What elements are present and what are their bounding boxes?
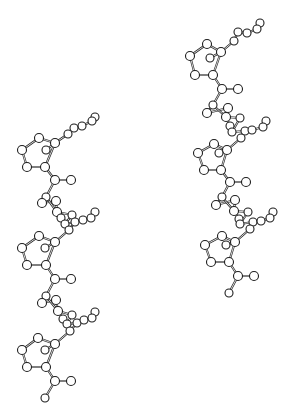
atom <box>78 122 86 130</box>
atom <box>236 114 244 122</box>
atom <box>64 130 72 138</box>
right-helix-molecule <box>186 19 278 297</box>
atom <box>237 134 245 142</box>
atom <box>222 241 230 249</box>
atom <box>65 226 73 234</box>
atom <box>52 197 61 206</box>
atom <box>23 261 32 270</box>
atom <box>209 101 217 109</box>
atom <box>201 241 210 250</box>
atom <box>209 71 218 80</box>
atom <box>34 334 43 343</box>
atom <box>242 178 251 187</box>
atom <box>38 299 47 308</box>
atom <box>217 48 226 57</box>
atom <box>218 85 227 94</box>
atom <box>226 178 235 187</box>
atom <box>259 123 267 131</box>
atom <box>51 238 60 247</box>
atom <box>80 316 88 324</box>
atom <box>186 52 195 61</box>
atom <box>67 377 76 386</box>
atom <box>234 85 243 94</box>
atom <box>243 29 251 37</box>
atom <box>234 28 242 36</box>
atom <box>266 214 274 222</box>
atom <box>54 307 63 316</box>
atom <box>200 166 209 175</box>
atom <box>231 238 240 247</box>
bond-layer <box>22 117 95 398</box>
atom <box>246 225 254 233</box>
atom <box>35 134 44 143</box>
atom <box>18 346 27 355</box>
atom <box>244 208 252 216</box>
atom <box>41 244 49 252</box>
atom <box>35 232 44 241</box>
atom <box>253 25 261 33</box>
left-helix-molecule <box>18 113 100 402</box>
atom <box>41 163 50 172</box>
atom <box>225 289 233 297</box>
atom <box>51 340 60 349</box>
atom <box>222 113 231 122</box>
atom-layer <box>18 113 100 402</box>
atom <box>23 163 32 172</box>
atom <box>42 261 51 270</box>
atom <box>18 244 27 253</box>
atom <box>231 196 240 205</box>
atom <box>223 146 232 155</box>
atom <box>51 377 60 386</box>
atom <box>18 146 27 155</box>
atom <box>215 149 223 157</box>
atom <box>38 199 47 208</box>
atom <box>230 207 239 216</box>
atom <box>51 275 60 284</box>
atom <box>248 126 256 134</box>
atom <box>79 216 87 224</box>
ball-and-stick-figure <box>0 0 292 417</box>
atom <box>42 363 51 372</box>
atom <box>71 218 79 226</box>
atom <box>194 149 203 158</box>
atom <box>51 176 60 185</box>
atom <box>67 176 76 185</box>
atom <box>191 71 200 80</box>
atom <box>212 201 221 210</box>
atom <box>87 214 95 222</box>
atom <box>206 54 214 62</box>
atom <box>42 146 50 154</box>
atom <box>88 314 96 322</box>
atom <box>52 296 61 305</box>
atom <box>257 217 265 225</box>
atom <box>41 394 49 402</box>
atom <box>68 311 76 319</box>
molecular-diagram <box>0 0 292 417</box>
bond-layer <box>190 23 273 293</box>
atom <box>67 275 76 284</box>
atom <box>218 232 227 241</box>
atom <box>66 327 74 335</box>
atom <box>203 109 212 118</box>
atom <box>217 166 226 175</box>
atom <box>207 258 216 267</box>
atom <box>210 140 219 149</box>
atom <box>224 104 233 113</box>
atom <box>51 139 60 148</box>
atom <box>88 117 96 125</box>
atom <box>234 272 243 281</box>
atom <box>228 128 236 136</box>
atom <box>203 40 212 49</box>
atom <box>41 346 49 354</box>
atom <box>23 363 32 372</box>
atom <box>236 220 244 228</box>
atom <box>218 193 226 201</box>
atom <box>230 37 238 45</box>
atom <box>250 272 259 281</box>
atom <box>225 258 234 267</box>
